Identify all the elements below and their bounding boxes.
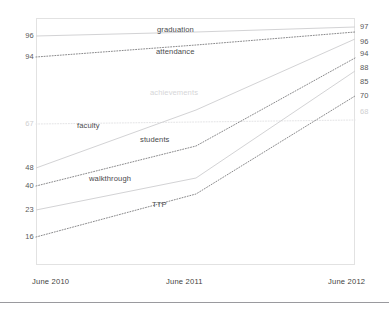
- series-line-attendance: [36, 32, 355, 57]
- y-axis-left-tick-16: 16: [6, 233, 34, 241]
- series-label-achievements: achievements: [150, 89, 198, 97]
- y-axis-left-tick-67: 67: [6, 120, 34, 128]
- y-axis-right-tick-94: 94: [360, 50, 389, 58]
- y-axis-right-tick-85: 85: [360, 78, 389, 86]
- y-axis-right-tick-88: 88: [360, 64, 389, 72]
- series-label-graduation: graduation: [157, 26, 194, 34]
- y-axis-left-tick-23: 23: [6, 206, 34, 214]
- y-axis-right-tick-96: 96: [360, 38, 389, 46]
- x-axis-tick-june-2011: June 2011: [166, 278, 203, 286]
- y-axis-right-tick-68: 68: [360, 108, 389, 116]
- series-label-ttp: TTP: [152, 201, 167, 209]
- x-axis-tick-june-2012: June 2012: [328, 278, 365, 286]
- y-axis-right-tick-97: 97: [360, 23, 389, 31]
- series-line-graduation: [36, 27, 355, 36]
- series-label-walkthrough: walkthrough: [89, 175, 131, 183]
- y-axis-left-tick-40: 40: [6, 182, 34, 190]
- bottom-separator-rule: [0, 302, 389, 303]
- series-line-ttp: [36, 96, 355, 237]
- line-chart: 96 94 67 48 40 23 16 97 96 94 88 85 70 6…: [0, 0, 389, 314]
- series-label-students: students: [140, 136, 170, 144]
- y-axis-left-tick-48: 48: [6, 164, 34, 172]
- series-label-faculty: faculty: [77, 122, 100, 130]
- series-label-attendance: attendance: [156, 48, 195, 56]
- x-axis-tick-june-2010: June 2010: [32, 278, 69, 286]
- y-axis-left-tick-94: 94: [6, 53, 34, 61]
- y-axis-left-tick-96: 96: [6, 32, 34, 40]
- y-axis-right-tick-70: 70: [360, 92, 389, 100]
- plot-lines: [36, 18, 355, 265]
